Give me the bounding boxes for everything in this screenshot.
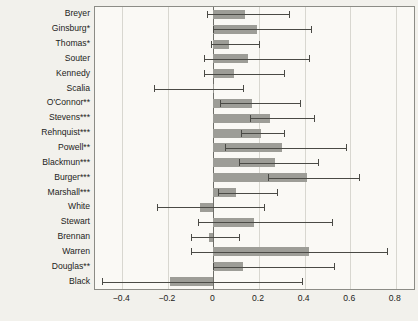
bar-row [95, 7, 414, 22]
ci-cap-low [154, 85, 155, 92]
ci-cap-low [213, 26, 214, 33]
y-axis-tick-label: Scalia [2, 83, 90, 93]
y-axis-tick-label: Blackmun*** [2, 157, 90, 167]
confidence-interval-line [211, 44, 259, 45]
x-axis-tick-label: −0.4 [113, 293, 130, 303]
y-axis-tick-label: Ginsburg* [2, 23, 90, 33]
y-axis-tick-label: Douglas** [2, 261, 90, 271]
y-axis-tick-label: Brennan [2, 231, 90, 241]
confidence-interval-line [191, 252, 387, 253]
y-axis-tick-label: Thomas* [2, 38, 90, 48]
ci-cap-low [268, 174, 269, 181]
confidence-interval-line [213, 267, 334, 268]
ci-cap-low [218, 189, 219, 196]
ci-cap-high [264, 204, 265, 211]
x-axis-tick-label: 0.8 [389, 293, 401, 303]
ci-cap-low [191, 248, 192, 255]
ci-cap-low [241, 130, 242, 137]
confidence-interval-line [191, 237, 239, 238]
confidence-interval-line [207, 14, 289, 15]
y-axis-tick-label: Marshall*** [2, 187, 90, 197]
confidence-interval-line [157, 207, 264, 208]
ci-cap-high [300, 100, 301, 107]
confidence-interval-line [213, 29, 311, 30]
y-axis-tick-label: Powell** [2, 142, 90, 152]
confidence-interval-line [225, 148, 346, 149]
confidence-interval-line [268, 178, 359, 179]
ci-cap-high [314, 115, 315, 122]
x-axis-tick-label: 0.4 [298, 293, 310, 303]
confidence-interval-line [250, 118, 314, 119]
ci-cap-low [204, 55, 205, 62]
plot-area [94, 6, 415, 290]
y-axis-tick-label: Souter [2, 53, 90, 63]
confidence-interval-line [204, 74, 284, 75]
confidence-interval-line [102, 282, 303, 283]
confidence-interval-line [220, 103, 300, 104]
ci-cap-low [211, 41, 212, 48]
x-axis-tick-label: 0 [210, 293, 215, 303]
bar-row [95, 22, 414, 37]
bar-row [95, 81, 414, 96]
ci-cap-high [332, 219, 333, 226]
x-axis-tick-label: 0.6 [343, 293, 355, 303]
ci-cap-low [157, 204, 158, 211]
ci-cap-high [243, 85, 244, 92]
confidence-interval-line [204, 59, 309, 60]
x-axis-labels: −0.4−0.200.20.40.60.8 [94, 291, 415, 315]
x-axis-tick-label: 0.2 [252, 293, 264, 303]
y-axis-tick-label: Stevens*** [2, 112, 90, 122]
y-axis-labels: BreyerGinsburg*Thomas*SouterKennedyScali… [0, 6, 90, 290]
y-axis-tick-label: Warren [2, 246, 90, 256]
confidence-interval-line [154, 89, 243, 90]
x-axis-tick-label: −0.2 [158, 293, 175, 303]
bar-row [95, 185, 414, 200]
ci-cap-high [289, 11, 290, 18]
bar-row [95, 126, 414, 141]
confidence-interval-line [218, 193, 277, 194]
y-axis-tick-label: Burger*** [2, 172, 90, 182]
y-axis-tick-label: Black [2, 276, 90, 286]
ci-cap-low [204, 70, 205, 77]
ci-cap-high [346, 144, 347, 151]
bar-row [95, 52, 414, 67]
bar-row [95, 244, 414, 259]
ci-cap-high [311, 26, 312, 33]
y-axis-tick-label: Breyer [2, 8, 90, 18]
ci-cap-low [250, 115, 251, 122]
confidence-interval-line [241, 133, 284, 134]
bar-row [95, 155, 414, 170]
bar-row [95, 37, 414, 52]
ci-cap-low [207, 11, 208, 18]
bar-row [95, 200, 414, 215]
bar-row [95, 66, 414, 81]
ci-cap-high [359, 174, 360, 181]
ci-cap-high [318, 159, 319, 166]
bar-row [95, 259, 414, 274]
ci-cap-high [309, 55, 310, 62]
bar-row [95, 111, 414, 126]
ci-cap-high [302, 278, 303, 285]
ci-cap-low [198, 219, 199, 226]
confidence-interval-line [239, 163, 319, 164]
ci-cap-high [259, 41, 260, 48]
bar-row [95, 215, 414, 230]
bar-row [95, 96, 414, 111]
bar-row [95, 170, 414, 185]
ci-cap-high [387, 248, 388, 255]
ci-cap-high [277, 189, 278, 196]
confidence-interval-line [198, 222, 332, 223]
y-axis-tick-label: Kennedy [2, 68, 90, 78]
ci-cap-high [334, 263, 335, 270]
y-axis-tick-label: Stewart [2, 216, 90, 226]
ci-cap-high [284, 70, 285, 77]
ci-cap-high [239, 234, 240, 241]
ci-cap-low [239, 159, 240, 166]
significance-bar-chart: BreyerGinsburg*Thomas*SouterKennedyScali… [0, 0, 418, 321]
ci-cap-low [220, 100, 221, 107]
bar-row [95, 141, 414, 156]
ci-cap-low [191, 234, 192, 241]
y-axis-tick-label: O'Connor** [2, 97, 90, 107]
bar-row [95, 274, 414, 289]
bar-row [95, 230, 414, 245]
